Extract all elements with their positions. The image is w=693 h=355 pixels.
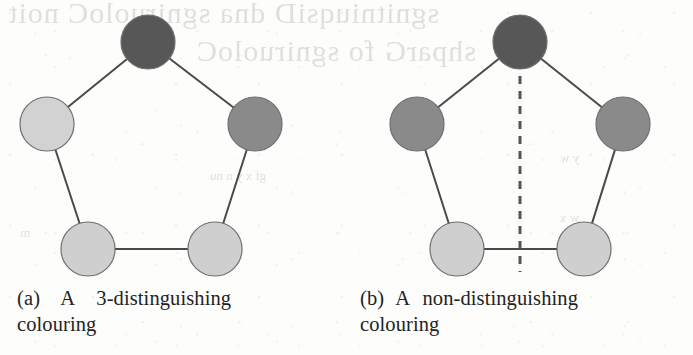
caption-a-word-2: 3-distinguishing xyxy=(96,287,231,309)
caption-a-line-2: colouring xyxy=(17,311,317,337)
pentagon-graph-a xyxy=(0,0,346,290)
graph-edge xyxy=(437,58,501,109)
caption-b-line-2: colouring xyxy=(360,311,660,337)
graph-edge xyxy=(55,148,80,225)
caption-b-word-1: A xyxy=(395,287,410,309)
caption-b-label: (b) xyxy=(360,287,384,309)
graph-vertex-upper-right xyxy=(596,97,650,151)
graph-vertex-lower-right xyxy=(557,222,611,276)
graph-edge xyxy=(540,58,604,109)
figure-panel-a: (a) A 3-distinguishing colouring xyxy=(0,0,346,355)
figure-page: sgnitniuqsiD dna sgniruoloC noit shparG … xyxy=(0,0,693,355)
caption-a-word-1: A xyxy=(60,287,75,309)
caption-a-label: (a) xyxy=(17,287,40,309)
graph-edge xyxy=(425,148,450,225)
graph-vertex-top xyxy=(121,15,175,69)
graph-vertex-upper-left xyxy=(20,97,74,151)
pentagon-graph-b xyxy=(346,0,693,290)
graph-vertex-lower-left xyxy=(61,222,115,276)
graph-vertex-upper-left xyxy=(390,97,444,151)
graph-vertex-upper-right xyxy=(228,97,282,151)
caption-b-word-2: non-distinguishing xyxy=(422,287,578,309)
figure-panel-b: (b) A non-distinguishing colouring xyxy=(346,0,693,355)
graph-vertex-lower-left xyxy=(430,222,484,276)
caption-a: (a) A 3-distinguishing colouring xyxy=(17,285,317,337)
graph-edge xyxy=(66,58,128,108)
graph-vertex-top xyxy=(493,15,547,69)
caption-b: (b) A non-distinguishing colouring xyxy=(360,285,660,337)
graph-edge xyxy=(168,57,235,109)
graph-edge xyxy=(591,148,615,225)
graph-edge xyxy=(223,148,248,225)
graph-vertex-lower-right xyxy=(188,222,242,276)
